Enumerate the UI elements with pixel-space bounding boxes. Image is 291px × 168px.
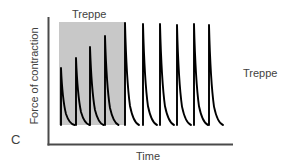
figure-panel-c: C Treppe Treppe Time Force of contractio… [0, 0, 291, 168]
twitch-trace-7 [160, 24, 174, 125]
treppe-annotation-label: Treppe [243, 67, 277, 79]
twitch-trace-9 [194, 24, 208, 125]
twitch-trace-5 [125, 23, 139, 125]
twitch-trace-8 [177, 25, 191, 125]
treppe-plot [0, 0, 291, 168]
treppe-shaded-region [59, 22, 126, 125]
panel-letter: C [11, 132, 20, 147]
x-axis-label: Time [136, 150, 160, 162]
twitch-trace-10 [209, 25, 223, 125]
twitch-trace-6 [143, 24, 157, 125]
y-axis-label: Force of contraction [28, 26, 40, 126]
treppe-region-label: Treppe [72, 8, 106, 20]
